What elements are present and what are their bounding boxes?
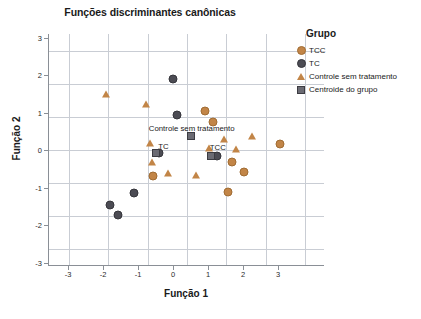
point-annotation-label: TCC [210, 143, 226, 152]
data-point [146, 140, 154, 147]
data-point [164, 169, 172, 176]
legend: Grupo TCC TC Controle sem tratamento Cen… [296, 28, 421, 96]
data-point [129, 189, 138, 198]
data-point [169, 74, 178, 83]
data-point [173, 111, 182, 120]
data-point [220, 136, 228, 143]
point-annotation-label: TC [158, 142, 168, 151]
legend-item-controle-sem-tratamento[interactable]: Controle sem tratamento [296, 70, 421, 83]
data-point [228, 157, 237, 166]
x-tick-label: 3 [268, 270, 288, 279]
legend-label: Centroide do grupo [309, 84, 378, 95]
y-tick-label: -1 [26, 184, 42, 193]
legend-item-tc[interactable]: TC [296, 57, 421, 70]
gridline-horizontal [49, 51, 324, 52]
data-point [148, 158, 156, 165]
y-tick-label: 3 [26, 34, 42, 43]
data-point [248, 133, 256, 140]
x-tick-label: -1 [128, 270, 148, 279]
x-tick-label: 2 [233, 270, 253, 279]
legend-item-tcc[interactable]: TCC [296, 44, 421, 57]
gridline-horizontal [49, 150, 324, 151]
y-tick-label: -2 [26, 221, 42, 230]
data-point [200, 106, 209, 115]
point-annotation-label: Controle sem tratamento [149, 124, 235, 133]
x-tick-label: 1 [198, 270, 218, 279]
data-point [207, 152, 215, 160]
y-tick-label: 2 [26, 71, 42, 80]
gridline-horizontal [49, 183, 324, 184]
canonical-discriminant-scatter-chart: Funções discriminantes canônicas 3 2 1 0… [0, 0, 421, 319]
data-point [102, 91, 110, 98]
square-marker-icon [296, 85, 306, 95]
legend-item-centroide-do-grupo[interactable]: Centroide do grupo [296, 83, 421, 96]
x-axis-label: Função 1 [48, 288, 324, 299]
gridline-horizontal [49, 216, 324, 217]
data-point [142, 101, 150, 108]
legend-label: TC [309, 58, 320, 69]
chart-title: Funções discriminantes canônicas [0, 6, 300, 18]
y-axis-label: Função 2 [11, 94, 22, 184]
data-point [149, 171, 158, 180]
circle-marker-icon [296, 46, 306, 56]
triangle-marker-icon [296, 72, 306, 82]
data-point [275, 140, 284, 149]
gridline-horizontal [49, 249, 324, 250]
legend-label: TCC [309, 45, 325, 56]
y-tick-label: -3 [26, 259, 42, 268]
plot-area: Controle sem tratamentoTCTCC [48, 34, 324, 266]
gridline-horizontal [49, 84, 324, 85]
data-point [224, 188, 233, 197]
data-point [192, 171, 200, 178]
x-tick-label: 0 [163, 270, 183, 279]
circle-marker-icon [296, 59, 306, 69]
legend-title: Grupo [306, 28, 421, 39]
data-point [114, 210, 123, 219]
y-tick-label: 0 [26, 146, 42, 155]
x-tick-label: -3 [58, 270, 78, 279]
data-point [106, 200, 115, 209]
gridline-horizontal [49, 117, 324, 118]
x-tick-label: -2 [93, 270, 113, 279]
data-point [232, 146, 240, 153]
y-tick-label: 1 [26, 109, 42, 118]
legend-label: Controle sem tratamento [309, 71, 397, 82]
data-point [240, 167, 249, 176]
